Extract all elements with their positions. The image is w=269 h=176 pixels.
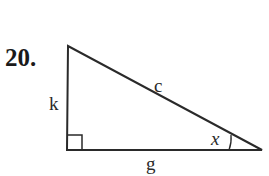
right-triangle-diagram: c k g x	[0, 0, 269, 176]
label-vertical-leg: k	[49, 93, 59, 114]
label-horizontal-leg: g	[146, 153, 156, 174]
right-angle-marker	[67, 135, 82, 150]
triangle-outline	[67, 46, 262, 150]
label-hypotenuse: c	[154, 75, 162, 96]
problem-figure: 20. c k g x	[0, 0, 269, 176]
label-angle: x	[210, 128, 220, 149]
angle-arc-marker	[229, 135, 231, 150]
